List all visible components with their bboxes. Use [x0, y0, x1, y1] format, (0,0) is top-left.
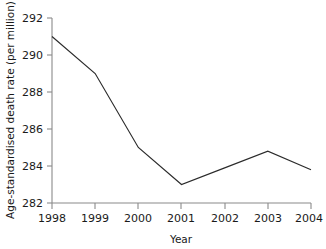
line-chart: 282 284 286 288 290 292 1998 1999 2000 2… — [0, 0, 326, 249]
y-tick-label-292: 292 — [22, 12, 43, 25]
x-tick-label-2001: 2001 — [167, 212, 195, 225]
x-tick-label-2003: 2003 — [254, 212, 282, 225]
y-axis-title: Age-standardised death rate (per million… — [4, 1, 16, 219]
y-tick-label-282: 282 — [22, 197, 43, 210]
y-tick-label-284: 284 — [22, 160, 43, 173]
x-tick-label-1998: 1998 — [38, 212, 66, 225]
y-axis-ticks — [47, 18, 52, 203]
y-tick-label-288: 288 — [22, 86, 43, 99]
chart-canvas: 282 284 286 288 290 292 1998 1999 2000 2… — [0, 0, 326, 249]
x-tick-label-2000: 2000 — [124, 212, 152, 225]
y-tick-label-290: 290 — [22, 49, 43, 62]
x-tick-label-1999: 1999 — [81, 212, 109, 225]
x-axis-ticks — [52, 203, 311, 209]
x-tick-label-2002: 2002 — [211, 212, 239, 225]
y-tick-label-286: 286 — [22, 123, 43, 136]
data-series-line — [52, 37, 311, 185]
x-axis-title: Year — [169, 233, 193, 245]
x-tick-label-2004: 2004 — [295, 212, 323, 225]
